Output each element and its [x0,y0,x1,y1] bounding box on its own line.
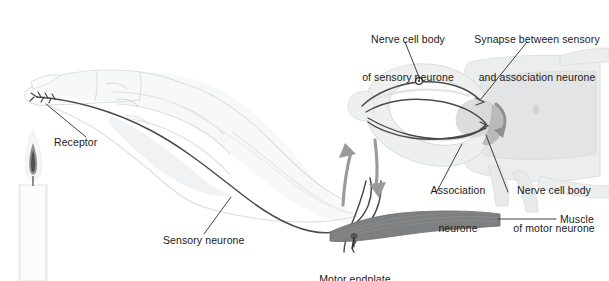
leader-sensory-neurone [204,197,231,234]
sensory-impulse-arrow-up [339,143,356,205]
label-sensory-neurone: Sensory neurone [163,234,244,247]
reflex-arc-diagram: Nerve cell body of sensory neurone Synap… [0,0,609,281]
label-motor-endplate: Motor endplate of axon [303,248,407,281]
label-nerve-cell-body-motor: Nerve cell body of motor neurone [500,159,608,259]
label-association-neurone: Association neurone [415,159,501,259]
label-receptor: Receptor [54,136,97,149]
label-muscle: Muscle [560,213,594,226]
label-synapse-sensory-association: Synapse between sensory and association … [464,8,609,108]
label-nerve-cell-body-sensory: Nerve cell body of sensory neurone [352,8,464,108]
candle [19,129,47,281]
